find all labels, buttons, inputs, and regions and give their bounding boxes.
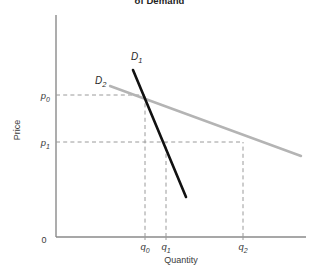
demand-curve-plot: D1 D2 p0 p1 q0 q1 q2 0 Quantity Price: [0, 0, 319, 274]
demand-elasticity-figure: of Demand D1 D2 p0: [0, 0, 319, 274]
demand-curve-d1: [133, 70, 186, 197]
y-axis-title: Price: [12, 120, 22, 141]
guide-lines-group: [56, 95, 243, 237]
y-tick-label-p1: p1: [40, 137, 50, 150]
x-axis-title: Quantity: [164, 255, 198, 265]
y-tick-label-p0: p0: [40, 90, 50, 103]
x-tick-label-q2: q2: [238, 241, 247, 254]
curve-label-d2: D2: [95, 75, 107, 89]
demand-curve-d2: [110, 86, 301, 156]
x-tick-label-q1: q1: [161, 241, 170, 254]
curve-label-d1: D1: [131, 51, 142, 65]
x-tick-label-q0: q0: [140, 241, 149, 254]
demand-curves-group: [110, 70, 301, 197]
origin-label: 0: [41, 235, 46, 245]
